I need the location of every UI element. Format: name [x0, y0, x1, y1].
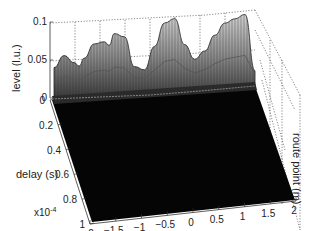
x-tick-label: 1 — [240, 211, 246, 222]
surface-plot: 00.050.1 00.20.40.60.81 −2−1.5−1−0.500.5… — [0, 0, 318, 231]
surface-floor — [52, 86, 295, 222]
x-tick-label: 1.5 — [261, 208, 275, 219]
x-tick-label: −1 — [134, 222, 146, 231]
y-tick-label: 0 — [39, 95, 45, 106]
z-tick-label: 0.05 — [28, 54, 48, 65]
x-tick-label: 0 — [188, 217, 194, 228]
y-tick-label: 0.8 — [63, 194, 77, 205]
x-tick-label: 2 — [291, 205, 297, 216]
z-tick-labels: 00.050.1 — [28, 16, 53, 103]
y-tick-label: 0.2 — [39, 120, 53, 131]
x-tick-label: 0.5 — [210, 214, 224, 225]
x-tick-label: −0.5 — [155, 219, 175, 230]
x-tick-label: −1.5 — [104, 225, 124, 231]
z-axis-label: level (l.u.) — [10, 44, 22, 92]
y-multiplier: x10-4 — [34, 206, 56, 218]
y-axis-label: delay (s) — [16, 168, 58, 180]
x-tick-label: −2 — [82, 228, 94, 231]
x-axis-label: route point (m) — [291, 133, 303, 205]
z-tick-label: 0.1 — [33, 16, 47, 27]
y-tick-label: 0.4 — [47, 145, 61, 156]
